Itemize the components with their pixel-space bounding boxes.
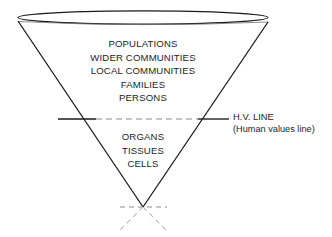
apex-dashed-extension-left <box>118 207 143 232</box>
lower-level-labels: ORGANS TISSUES CELLS <box>73 130 213 171</box>
level-label-families: FAMILIES <box>43 78 243 92</box>
upper-level-labels: POPULATIONS WIDER COMMUNITIES LOCAL COMM… <box>43 37 243 105</box>
level-label-populations: POPULATIONS <box>43 37 243 51</box>
level-label-wider-communities: WIDER COMMUNITIES <box>43 51 243 65</box>
hv-line-sublabel: (Human values line) <box>233 123 332 136</box>
hv-line-label: H.V. LINE <box>233 110 332 123</box>
apex-dashed-extension-right <box>143 207 168 232</box>
level-label-persons: PERSONS <box>43 91 243 105</box>
hv-line-annotation: H.V. LINE (Human values line) <box>233 110 332 136</box>
level-label-organs: ORGANS <box>73 130 213 144</box>
cone-rim-ellipse <box>18 11 268 24</box>
level-label-tissues: TISSUES <box>73 144 213 158</box>
diagram-canvas: POPULATIONS WIDER COMMUNITIES LOCAL COMM… <box>0 0 332 237</box>
level-label-local-communities: LOCAL COMMUNITIES <box>43 64 243 78</box>
level-label-cells: CELLS <box>73 157 213 171</box>
